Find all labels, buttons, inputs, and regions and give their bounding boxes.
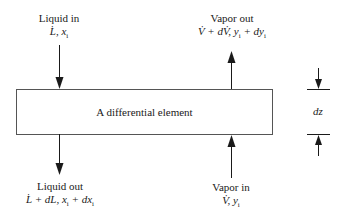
dz-label: dz [306, 105, 330, 118]
vapor-in-label: Vapor in V̇, yi [201, 181, 261, 212]
liquid-out-label: Liquid out L̇ + dL, xi + dxi [14, 180, 106, 211]
vapor-out-title: Vapor out [186, 12, 278, 25]
liquid-out-vars: L̇ + dL, xi + dxi [14, 193, 106, 211]
liquid-in-vars: L̇, xi [24, 25, 94, 43]
vapor-in-arrow [228, 135, 236, 178]
liquid-out-arrow [56, 134, 64, 175]
liquid-in-label: Liquid in L̇, xi [24, 12, 94, 43]
vapor-in-title: Vapor in [201, 181, 261, 194]
vapor-out-arrow [228, 51, 236, 89]
liquid-out-title: Liquid out [14, 180, 106, 193]
vapor-out-vars: V̇ + dV̇, yi + dyi [186, 25, 278, 43]
vapor-out-label: Vapor out V̇ + dV̇, yi + dyi [186, 12, 278, 43]
liquid-in-title: Liquid in [24, 12, 94, 25]
liquid-in-arrow [56, 45, 64, 89]
vapor-in-vars: V̇, yi [201, 194, 261, 212]
differential-element-label: A differential element [16, 89, 273, 134]
element-label-text: A differential element [96, 106, 192, 118]
